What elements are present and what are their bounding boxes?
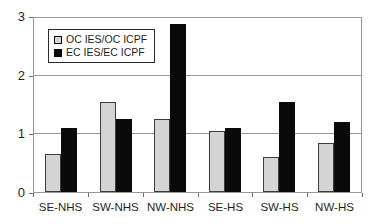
x-axis-tick [252,193,253,197]
x-axis-tick [198,193,199,197]
bar-ec-se-hs [225,128,241,192]
legend-swatch-ec [54,49,62,57]
y-axis-tick [29,134,33,135]
y-axis-tick [29,17,33,18]
x-category-label: SE-NHS [33,201,88,214]
y-tick-label: 2 [0,69,25,83]
legend-label-ec: EC IES/EC ICPF [66,46,145,59]
legend-swatch-oc [54,36,62,44]
legend: OC IES/OC ICPF EC IES/EC ICPF [48,29,155,63]
bar-ec-sw-hs [279,102,295,192]
y-tick-label: 3 [0,10,25,24]
legend-item-oc: OC IES/OC ICPF [54,33,147,46]
x-category-label: SE-HS [198,201,253,214]
x-category-label: SW-NHS [88,201,143,214]
bar-ec-nw-hs [334,122,350,192]
legend-label-oc: OC IES/OC ICPF [66,33,147,46]
bar-chart: 0123 SE-NHSSW-NHSNW-NHSSE-HSSW-HSNW-HS O… [0,0,373,224]
gridline-y2 [34,75,361,76]
x-axis-tick [362,193,363,197]
x-category-label: NW-HS [307,201,362,214]
x-axis-tick [33,193,34,197]
bar-oc-nw-hs [318,143,334,192]
bar-oc-nw-nhs [154,119,170,192]
x-axis-tick [143,193,144,197]
x-category-label: SW-HS [252,201,307,214]
gridline-y1 [34,133,361,134]
bar-ec-sw-nhs [116,119,132,192]
bar-oc-se-hs [209,131,225,192]
bar-ec-se-nhs [61,128,77,192]
y-tick-label: 1 [0,127,25,141]
bar-oc-sw-nhs [100,102,116,192]
y-axis-tick [29,76,33,77]
bar-oc-se-nhs [45,154,61,192]
bar-oc-sw-hs [263,157,279,192]
x-axis-tick [307,193,308,197]
y-tick-label: 0 [0,186,25,200]
x-category-label: NW-NHS [143,201,198,214]
bar-ec-nw-nhs [170,24,186,192]
legend-item-ec: EC IES/EC ICPF [54,46,147,59]
x-axis-tick [88,193,89,197]
